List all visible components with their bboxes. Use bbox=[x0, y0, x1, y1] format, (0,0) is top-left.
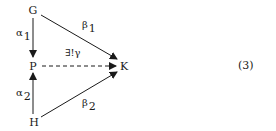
label-gamma: ∃!γ bbox=[65, 48, 80, 58]
label-alpha2-symbol: α bbox=[16, 87, 23, 98]
label-beta1: β1 bbox=[82, 20, 96, 34]
node-p: P bbox=[29, 61, 36, 72]
equation-number: (3) bbox=[238, 59, 254, 72]
label-beta2-symbol: β bbox=[82, 97, 88, 108]
label-beta2: β2 bbox=[82, 98, 96, 112]
diagram-arrows bbox=[0, 0, 276, 131]
arrow-beta2 bbox=[41, 72, 117, 117]
label-alpha1-symbol: α bbox=[16, 27, 23, 38]
node-h: H bbox=[29, 117, 39, 128]
node-k: K bbox=[120, 61, 128, 72]
label-beta1-symbol: β bbox=[82, 19, 88, 30]
label-beta2-subscript: 2 bbox=[89, 100, 96, 113]
label-alpha1-subscript: 1 bbox=[24, 30, 31, 43]
label-alpha2: α2 bbox=[16, 88, 31, 102]
label-alpha1: α1 bbox=[16, 28, 31, 42]
node-g: G bbox=[29, 5, 38, 16]
label-beta1-subscript: 1 bbox=[89, 22, 96, 35]
label-alpha2-subscript: 2 bbox=[24, 90, 31, 103]
